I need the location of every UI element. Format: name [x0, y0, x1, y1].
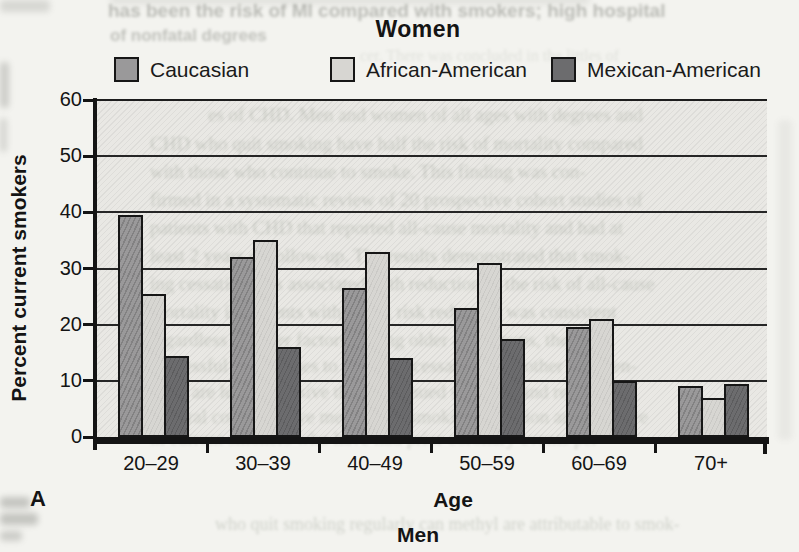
legend-swatch-mexican-american — [551, 57, 576, 82]
x-boundary-tick-5 — [654, 444, 657, 453]
x-category-label-20–29: 20–29 — [123, 452, 179, 475]
y-tick-label-20: 20 — [30, 313, 82, 336]
y-tick-50 — [83, 155, 96, 158]
bar-african-american-20–29 — [141, 294, 166, 437]
x-category-label-50–59: 50–59 — [459, 452, 515, 475]
y-tick-60 — [83, 99, 96, 102]
scan-smudge — [0, 531, 22, 541]
plot-top-border — [95, 99, 767, 101]
legend-swatch-caucasian — [114, 57, 139, 82]
x-category-label-40–49: 40–49 — [347, 452, 403, 475]
scan-smudge — [110, 0, 590, 4]
bar-caucasian-40–49 — [342, 288, 367, 437]
bar-caucasian-20–29 — [118, 215, 143, 437]
y-tick-label-30: 30 — [30, 257, 82, 280]
gridline-10 — [95, 380, 767, 382]
chart-title: Women — [375, 16, 460, 43]
bottom-caption: Men — [397, 523, 439, 547]
gridline-20 — [95, 324, 767, 326]
scan-smudge — [0, 62, 9, 108]
bar-caucasian-70+ — [678, 386, 703, 437]
scan-smudge — [0, 497, 30, 508]
bar-caucasian-30–39 — [230, 257, 255, 437]
bar-mexican-american-40–49 — [388, 358, 413, 437]
bar-caucasian-60–69 — [566, 327, 591, 437]
x-category-label-70+: 70+ — [694, 452, 728, 475]
legend-swatch-african-american — [330, 57, 355, 82]
bar-mexican-american-20–29 — [164, 356, 189, 437]
x-category-label-30–39: 30–39 — [235, 452, 291, 475]
bleedthrough-text-line: who quit smoking regularly can methyl ar… — [215, 514, 679, 535]
x-boundary-tick-1 — [206, 444, 209, 453]
legend-label-caucasian: Caucasian — [150, 58, 249, 82]
gridline-40 — [95, 211, 767, 213]
y-tick-label-40: 40 — [30, 200, 82, 223]
legend-item-mexican-american: Mexican-American — [551, 57, 761, 82]
legend-item-caucasian: Caucasian — [114, 57, 249, 82]
x-axis-baseline — [93, 437, 769, 444]
scanned-figure: Women CaucasianAfrican-AmericanMexican-A… — [0, 0, 799, 552]
y-tick-label-0: 0 — [30, 425, 82, 448]
bar-african-american-50–59 — [477, 263, 502, 437]
legend-label-mexican-american: Mexican-American — [587, 58, 761, 82]
bar-mexican-american-30–39 — [276, 347, 301, 437]
y-axis — [93, 98, 97, 450]
gridline-50 — [95, 155, 767, 157]
x-boundary-tick-3 — [430, 444, 433, 453]
scan-smudge — [778, 120, 792, 440]
bar-african-american-70+ — [701, 398, 726, 437]
y-tick-label-60: 60 — [30, 88, 82, 111]
x-axis-end-hook — [763, 437, 767, 454]
bar-african-american-40–49 — [365, 252, 390, 437]
scan-smudge — [0, 513, 38, 525]
x-boundary-tick-4 — [542, 444, 545, 453]
x-boundary-tick-2 — [318, 444, 321, 453]
scan-smudge — [0, 0, 50, 12]
panel-letter: A — [30, 486, 46, 512]
y-axis-title: Percent current smokers — [7, 154, 31, 401]
y-tick-40 — [83, 211, 96, 214]
y-tick-10 — [83, 379, 96, 382]
bar-caucasian-50–59 — [454, 308, 479, 437]
y-tick-30 — [83, 267, 96, 270]
bar-african-american-30–39 — [253, 240, 278, 437]
bleedthrough-text-line: of nonfatal degrees — [110, 26, 267, 46]
gridline-30 — [95, 268, 767, 270]
bar-mexican-american-50–59 — [500, 339, 525, 437]
scan-smudge — [0, 118, 7, 152]
legend-item-african-american: African-American — [330, 57, 527, 82]
y-tick-label-10: 10 — [30, 369, 82, 392]
bar-mexican-american-70+ — [724, 384, 749, 437]
bar-african-american-60–69 — [589, 319, 614, 437]
legend-label-african-american: African-American — [366, 58, 527, 82]
bar-mexican-american-60–69 — [612, 381, 637, 437]
y-tick-20 — [83, 323, 96, 326]
x-axis-title: Age — [433, 488, 473, 512]
x-category-label-60–69: 60–69 — [571, 452, 627, 475]
y-tick-label-50: 50 — [30, 144, 82, 167]
